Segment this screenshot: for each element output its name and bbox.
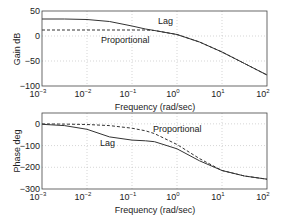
x-tick-label: 102 [256,191,270,202]
x-tick-label: 10−1 [120,88,138,99]
y-tick-label: −100 [20,141,40,151]
phase-xticks: 10−310−210−1100101102 [30,191,271,202]
y-tick-label: 0 [35,119,40,129]
y-tick-label: −200 [20,162,40,172]
phase-xlabel: Frequency (rad/sec) [115,205,196,215]
gain-xticks: 10−310−210−1100101102 [30,88,271,99]
gain-lag-curve [42,19,267,75]
y-tick-label: −50 [25,56,40,66]
gain-axes-frame [42,11,267,86]
gain-proportional-label: Proportional [101,35,150,45]
y-tick-label: 50 [30,6,40,16]
x-tick-label: 101 [211,191,225,202]
gain-ylabel: Gain dB [12,33,22,66]
x-tick-label: 100 [166,191,180,202]
x-tick-label: 10−3 [30,191,48,202]
gain-lag-label: Lag [158,16,173,26]
x-tick-label: 102 [256,88,270,99]
gain-xlabel: Frequency (rad/sec) [115,102,196,112]
x-tick-label: 10−1 [120,191,138,202]
x-tick-label: 101 [211,88,225,99]
phase-axes: Lag Proportional Phase deg 0−100−200−300 [12,113,267,194]
bode-plot: Lag Proportional Gain dB 500−50−100 10−3… [0,0,283,219]
phase-proportional-label: Proportional [153,124,202,134]
y-tick-label: 0 [35,31,40,41]
phase-lag-label: Lag [100,138,115,148]
x-tick-label: 100 [166,88,180,99]
gain-proportional-curve [42,30,267,75]
gain-axes: Lag Proportional Gain dB 500−50−100 [12,6,267,91]
x-tick-label: 10−3 [30,88,48,99]
x-tick-label: 10−2 [75,191,93,202]
x-tick-label: 10−2 [75,88,93,99]
